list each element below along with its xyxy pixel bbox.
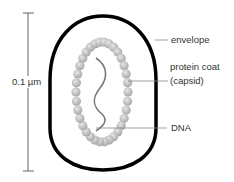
capsid-beads xyxy=(71,38,132,147)
protein-coat-label: protein coat xyxy=(170,61,220,72)
dna-label: DNA xyxy=(171,122,191,133)
capsid-label: (capsid) xyxy=(170,75,204,86)
virus-diagram xyxy=(0,0,234,182)
scale-bar xyxy=(23,13,34,171)
envelope-label: envelope xyxy=(171,34,210,45)
scale-bar-label: 0.1 µm xyxy=(12,76,41,87)
dna-strand xyxy=(94,58,105,131)
